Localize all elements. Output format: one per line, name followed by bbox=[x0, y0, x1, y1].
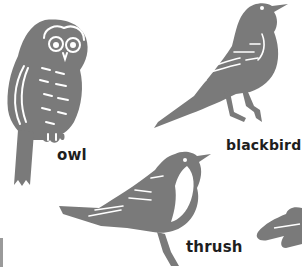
blackbird-icon bbox=[150, 0, 302, 130]
partial-bird-icon bbox=[254, 204, 302, 267]
thrush-label: thrush bbox=[186, 240, 243, 255]
bird-illustration: owl blackbird bbox=[0, 0, 302, 267]
blackbird-label: blackbird bbox=[226, 138, 301, 152]
partial-branch bbox=[0, 238, 3, 267]
